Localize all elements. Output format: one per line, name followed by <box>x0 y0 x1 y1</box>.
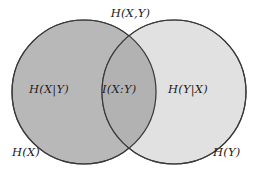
mutual-information-label: I(X:Y) <box>102 84 136 96</box>
entropy-x-label: H(X) <box>12 147 40 159</box>
entropy-y-label: H(Y) <box>213 147 240 159</box>
conditional-entropy-y-given-x-label: H(Y|X) <box>168 84 208 96</box>
conditional-entropy-x-given-y-label: H(X|Y) <box>29 84 69 96</box>
venn-diagram-figure: H(X,Y) H(X|Y) I(X:Y) H(Y|X) H(X) H(Y) <box>0 0 261 174</box>
joint-entropy-label: H(X,Y) <box>0 8 261 20</box>
